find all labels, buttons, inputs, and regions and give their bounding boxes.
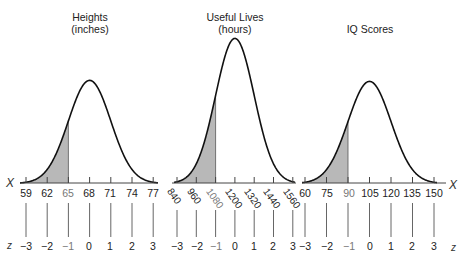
z-tick-label: 1 (388, 240, 394, 252)
panel-title-heights: Heights (inches) (40, 11, 140, 35)
z-axis-letter-left: z (7, 240, 12, 251)
x-axis-letter-right: X (449, 178, 457, 192)
x-tick-label: 75 (321, 187, 333, 199)
x-tick-label: 90 (343, 187, 355, 199)
title-line-1: Heights (40, 11, 140, 23)
x-tick-label: 65 (62, 187, 74, 199)
shaded-area (26, 122, 68, 183)
z-tick-label: −2 (41, 240, 53, 252)
z-tick-label: 2 (409, 240, 415, 252)
x-tick-label: 105 (361, 187, 379, 199)
z-tick-label: 2 (129, 240, 135, 252)
shaded-area (177, 96, 216, 183)
x-tick-label: 60 (299, 187, 311, 199)
x-tick-label: 62 (41, 187, 53, 199)
z-tick-label: −1 (210, 240, 222, 252)
x-to-z-connector-lines (26, 203, 434, 237)
z-tick-label: −2 (191, 240, 203, 252)
x-tick-label: 59 (20, 187, 32, 199)
x-axis-letter-left: X (6, 176, 14, 190)
z-tick-label: −3 (171, 240, 183, 252)
z-axis-letter-right: z (451, 242, 456, 253)
normal-curve (302, 81, 437, 182)
z-tick-label: 0 (367, 240, 373, 252)
x-tick-label: 71 (104, 187, 116, 199)
z-tick-label: −3 (299, 240, 311, 252)
normal-curves (20, 38, 437, 183)
title-line-2: (inches) (40, 23, 140, 35)
z-tick-label: 1 (107, 240, 113, 252)
z-tick-label: −3 (20, 240, 32, 252)
title-line-1: Useful Lives (185, 11, 285, 23)
shaded-regions (26, 95, 348, 183)
z-tick-label: 0 (232, 240, 238, 252)
x-tick-label: 150 (425, 187, 443, 199)
z-tick-label: 2 (270, 240, 276, 252)
z-tick-label: 0 (86, 240, 92, 252)
shaded-area (305, 122, 348, 183)
z-tick-label: 3 (431, 240, 437, 252)
normal-curve (174, 38, 295, 182)
x-tick-label: 74 (126, 187, 138, 199)
title-line-2: (hours) (185, 23, 285, 35)
normal-curve (20, 80, 158, 183)
x-axes (20, 177, 446, 183)
x-tick-label: 120 (382, 187, 400, 199)
normal-curves-diagram (0, 0, 468, 263)
x-tick-label: 68 (83, 187, 95, 199)
x-tick-label: 135 (403, 187, 421, 199)
z-tick-label: 3 (150, 240, 156, 252)
z-tick-label: −1 (62, 240, 74, 252)
z-tick-label: −1 (343, 240, 355, 252)
panel-title-iq-scores: IQ Scores (320, 23, 420, 35)
z-tick-label: 3 (290, 240, 296, 252)
z-tick-label: 1 (251, 240, 257, 252)
z-tick-label: −2 (321, 240, 333, 252)
title-line-1: IQ Scores (320, 23, 420, 35)
x-tick-label: 77 (147, 187, 159, 199)
panel-title-useful-lives: Useful Lives (hours) (185, 11, 285, 35)
